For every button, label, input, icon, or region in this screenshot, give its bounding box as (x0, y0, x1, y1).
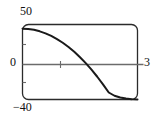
x-axis-max-label: 3 (144, 56, 150, 68)
plot-frame (23, 25, 138, 100)
y-axis-min-label: −40 (13, 101, 32, 113)
y-axis-zero-label: 0 (10, 56, 16, 68)
y-axis-max-label: 50 (20, 5, 32, 17)
chart-container: 50 0 −40 3 (0, 0, 158, 119)
